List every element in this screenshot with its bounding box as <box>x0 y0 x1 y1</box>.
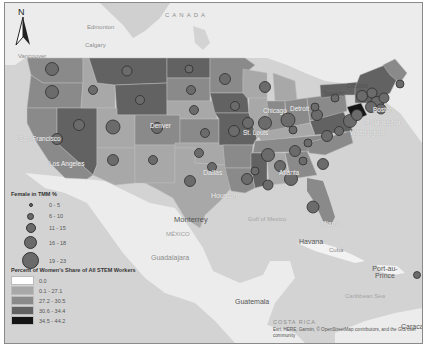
legend-female-tmm: Female in TMM % 0 - 5 6 - 10 11 - 15 16 … <box>11 191 161 271</box>
legend-symbol-row: 6 - 10 <box>11 211 161 222</box>
legend-swatch <box>11 316 34 325</box>
state-ia <box>210 93 249 113</box>
legend-symbol-row: 16 - 18 <box>11 235 161 251</box>
state-co <box>135 115 180 145</box>
label-monterrey: Monterrey <box>174 216 208 224</box>
label-cuba: Cuba <box>329 247 343 253</box>
legend-fill-label: 0.0 <box>39 278 47 284</box>
label-mexico: MÉXICO <box>166 231 190 237</box>
north-arrow-icon <box>15 17 31 47</box>
legend-swatch <box>11 276 34 285</box>
legend-symbol-title: Female in TMM % <box>11 191 161 197</box>
state-ks <box>180 119 219 143</box>
legend-symbol-row: 11 - 15 <box>11 222 161 235</box>
legend-swatch <box>11 286 34 295</box>
label-chicago: Chicago <box>263 108 287 115</box>
label-canada: CANADA <box>165 12 208 18</box>
map-attribution: Esri, HERE, Garmin, © OpenStreetMap cont… <box>273 327 423 338</box>
label-st-louis: St. Louis <box>243 130 268 137</box>
legend-dot-icon <box>29 203 33 207</box>
north-label: N <box>18 7 25 17</box>
legend-swatch <box>11 306 34 315</box>
legend-fill-label: 34.5 - 44.2 <box>39 318 65 324</box>
legend-fill-label: 30.6 - 34.4 <box>39 308 65 314</box>
legend-symbol-label: 0 - 5 <box>49 202 60 208</box>
label-toronto: Toronto <box>323 91 345 98</box>
label-dallas: Dallas <box>203 169 222 176</box>
label-san-francisco: San Francisco <box>19 136 61 143</box>
legend-dot-icon <box>24 236 37 249</box>
legend-fill-label: 27.2 - 30.5 <box>39 298 65 304</box>
label-miami: Miami <box>321 221 338 228</box>
legend-fill-row: 30.6 - 34.4 <box>11 306 136 315</box>
label-washington: Washington <box>350 130 384 137</box>
state-nd <box>167 58 210 78</box>
label-houston: Houston <box>211 192 237 199</box>
label-detroit: Detroit <box>290 106 309 113</box>
label-gulf-of-mexico: Gulf of Mexico <box>247 216 287 222</box>
map-frame[interactable]: N CANADA Edmonton Calgary Vancouver Otta… <box>4 2 423 344</box>
label-guatemala: Guatemala <box>235 298 269 305</box>
label-philadelphia: Philadelphia <box>365 120 400 127</box>
state-wi <box>243 69 267 98</box>
label-ottawa: Ottawa <box>347 83 368 90</box>
state-ar <box>223 145 253 168</box>
label-boston: Boston <box>373 107 393 114</box>
north-arrow: N <box>15 7 31 47</box>
legend-fill-row: 27.2 - 30.5 <box>11 296 136 305</box>
legend-symbol-label: 11 - 15 <box>49 225 66 231</box>
legend-symbol-label: 6 - 10 <box>49 213 63 219</box>
label-caribbean-sea: Caribbean Sea <box>345 293 385 299</box>
legend-fill-title: Percent of Women's Share of All STEM Wor… <box>11 267 136 273</box>
legend-fill-label: 0.1 - 27.1 <box>39 288 62 294</box>
label-havana: Havana <box>299 238 323 245</box>
label-port-au-prince: Port-au-Prince <box>365 265 405 279</box>
label-atlanta: Atlanta <box>279 170 299 177</box>
legend-fill-row: 0.1 - 27.1 <box>11 286 136 295</box>
label-costa-rica: COSTA RICA <box>273 320 316 326</box>
legend-symbol-row: 0 - 5 <box>11 200 161 211</box>
legend-dot-icon <box>27 213 34 220</box>
legend-fill-row: 0.0 <box>11 276 136 285</box>
label-edmonton: Edmonton <box>87 24 114 30</box>
label-calgary: Calgary <box>85 42 106 48</box>
legend-swatch <box>11 296 34 305</box>
legend-stem-share: Percent of Women's Share of All STEM Wor… <box>11 274 136 326</box>
legend-fill-row: 34.5 - 44.2 <box>11 316 136 325</box>
legend-dot-icon <box>26 223 36 233</box>
state-nm <box>135 145 175 183</box>
label-los-angeles: Los Angeles <box>49 161 84 168</box>
legend-symbol-label: 16 - 18 <box>49 240 66 246</box>
legend-symbol-label: 19 - 23 <box>49 258 66 264</box>
state-sd <box>167 78 210 101</box>
state-mt <box>89 58 167 85</box>
label-vancouver: Vancouver <box>18 53 46 59</box>
label-denver: Denver <box>150 123 171 130</box>
state-wy <box>115 83 167 115</box>
